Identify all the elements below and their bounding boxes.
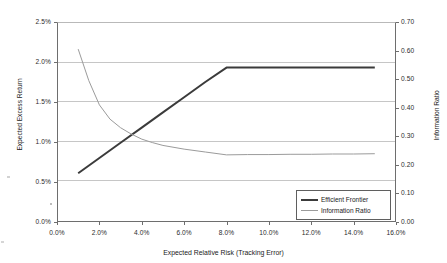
y-axis-left-tick-label: 1.0%	[17, 138, 51, 145]
legend-item-label: Efficient Frontier	[321, 196, 368, 203]
tick-mark	[396, 22, 399, 23]
tick-mark	[396, 222, 397, 225]
tick-mark	[99, 222, 100, 225]
y-axis-right-tick-label: 0.40	[401, 104, 435, 111]
tick-mark	[396, 79, 399, 80]
y-axis-left-tick-label: 1.5%	[17, 98, 51, 105]
y-axis-right-tick-label: 0.70	[401, 18, 435, 25]
tick-mark	[184, 222, 185, 225]
y-axis-left-tick-label: 0.5%	[17, 178, 51, 185]
tick-mark	[396, 165, 399, 166]
x-axis-tick-label: 16.0%	[376, 229, 416, 236]
x-axis-tick-label: 2.0%	[79, 229, 119, 236]
x-axis-tick-label: 10.0%	[249, 229, 289, 236]
tick-mark	[354, 222, 355, 225]
scan-artifact	[50, 203, 52, 205]
tick-mark	[54, 62, 57, 63]
tick-mark	[54, 142, 57, 143]
tick-mark	[269, 222, 270, 225]
tick-mark	[54, 182, 57, 183]
chart-legend: Efficient Frontier Information Ratio	[296, 190, 391, 220]
scan-artifact	[1, 241, 4, 243]
tick-mark	[311, 222, 312, 225]
legend-line-icon	[301, 199, 318, 201]
y-axis-right-tick-label: 0.50	[401, 75, 435, 82]
x-axis-title: Expected Relative Risk (Tracking Error)	[0, 249, 447, 256]
x-axis-tick-label: 6.0%	[164, 229, 204, 236]
x-axis-tick-label: 14.0%	[334, 229, 374, 236]
tick-mark	[142, 222, 143, 225]
x-axis-tick-label: 0.0%	[37, 229, 77, 236]
y-axis-left-tick-label: 0.0%	[17, 218, 51, 225]
x-axis-tick-label: 12.0%	[291, 229, 331, 236]
scan-artifact	[7, 176, 10, 178]
tick-mark	[396, 136, 399, 137]
tick-mark	[227, 222, 228, 225]
y-axis-right-tick-label: 0.60	[401, 47, 435, 54]
series-line-efficient-frontier	[78, 68, 375, 174]
series-line-information-ratio	[78, 49, 375, 155]
x-axis-tick-label: 8.0%	[207, 229, 247, 236]
legend-item-efficient-frontier: Efficient Frontier	[301, 194, 386, 205]
legend-line-icon	[301, 210, 318, 211]
y-axis-left-title: Expected Excess Return	[16, 55, 23, 175]
y-axis-right-title: Information Ratio	[433, 56, 440, 176]
y-axis-right-tick-label: 0.00	[401, 218, 435, 225]
y-axis-right-tick-label: 0.20	[401, 161, 435, 168]
legend-item-information-ratio: Information Ratio	[301, 205, 386, 216]
tick-mark	[54, 102, 57, 103]
tick-mark	[54, 22, 57, 23]
y-axis-left-tick-label: 2.5%	[17, 18, 51, 25]
x-axis-tick-label: 4.0%	[122, 229, 162, 236]
y-axis-left-tick-label: 2.0%	[17, 58, 51, 65]
legend-item-label: Information Ratio	[321, 207, 371, 214]
tick-mark	[396, 51, 399, 52]
tick-mark	[396, 193, 399, 194]
tick-mark	[57, 222, 58, 225]
y-axis-right-tick-label: 0.30	[401, 132, 435, 139]
y-axis-right-tick-label: 0.10	[401, 189, 435, 196]
chart-figure: Expected Excess Return Information Ratio…	[0, 0, 447, 263]
tick-mark	[396, 108, 399, 109]
